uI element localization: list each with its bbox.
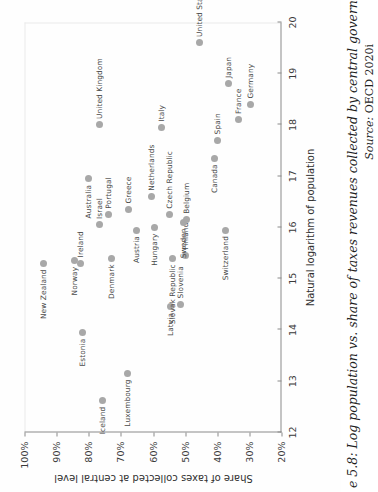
y-tick-label: 70% xyxy=(115,441,126,462)
x-tick-mark xyxy=(277,277,281,278)
data-point[interactable] xyxy=(40,259,47,266)
data-point-label: Switzerland xyxy=(220,236,229,280)
data-point-label: New Zealand xyxy=(39,269,48,319)
data-point[interactable] xyxy=(125,206,132,213)
y-tick-label: 100% xyxy=(19,441,30,468)
x-tick-label: 15 xyxy=(286,272,297,284)
y-tick-label: 50% xyxy=(179,441,190,462)
x-tick-label: 12 xyxy=(286,426,297,438)
data-point-label: Canada xyxy=(209,164,218,193)
y-tick-label: 20% xyxy=(276,441,287,462)
data-point-label: Spain xyxy=(212,113,221,134)
data-point[interactable] xyxy=(107,254,114,261)
x-tick-label: 19 xyxy=(286,67,297,79)
data-point-label: Czech Republic xyxy=(164,151,173,209)
data-point-label: Luxembourg xyxy=(122,379,131,426)
data-point[interactable] xyxy=(221,226,228,233)
x-tick-label: 13 xyxy=(286,375,297,387)
data-point[interactable] xyxy=(165,211,172,218)
x-tick-label: 18 xyxy=(286,118,297,130)
data-point[interactable] xyxy=(123,370,130,377)
data-point-label: Portugal xyxy=(103,177,112,208)
data-point-label: Japan xyxy=(223,56,232,77)
y-tick-mark xyxy=(24,432,25,436)
y-tick-mark xyxy=(249,432,250,436)
data-point[interactable] xyxy=(234,116,241,123)
x-tick-mark xyxy=(277,226,281,227)
data-point[interactable] xyxy=(96,221,103,228)
data-point-label: Sweden xyxy=(179,228,188,258)
y-tick-mark xyxy=(217,432,218,436)
data-point-label: Hungary xyxy=(150,233,159,265)
y-tick-mark xyxy=(56,432,57,436)
data-point[interactable] xyxy=(77,259,84,266)
data-point[interactable] xyxy=(151,224,158,231)
data-point-label: Slovak Republic xyxy=(167,264,176,324)
x-tick-label: 17 xyxy=(286,170,297,182)
data-point-label: Austria xyxy=(132,236,141,263)
data-point[interactable] xyxy=(96,121,103,128)
x-axis-title: Natural logarithm of population xyxy=(304,148,315,306)
data-point-label: Belgium xyxy=(182,182,191,213)
x-tick-mark xyxy=(277,21,281,22)
y-tick-label: 30% xyxy=(243,441,254,462)
y-tick-mark xyxy=(185,432,186,436)
data-point-label: Norway xyxy=(69,266,78,295)
x-tick-mark xyxy=(277,380,281,381)
data-point-label: Iceland xyxy=(97,406,106,433)
x-tick-label: 20 xyxy=(286,16,297,28)
x-tick-mark xyxy=(277,72,281,73)
data-point-label: Netherlands xyxy=(146,144,155,190)
data-point-label: Italy xyxy=(156,105,165,122)
data-point-label: France xyxy=(233,88,242,113)
data-point-label: United Kingdom xyxy=(95,58,104,119)
data-point[interactable] xyxy=(213,136,220,143)
source-label: Source: xyxy=(363,117,376,160)
source-reference: OECD 2020i xyxy=(363,44,376,113)
data-point[interactable] xyxy=(157,124,164,131)
x-tick-mark xyxy=(277,329,281,330)
x-tick-label: 14 xyxy=(286,323,297,335)
y-tick-label: 90% xyxy=(51,441,62,462)
data-point[interactable] xyxy=(224,80,231,87)
y-tick-label: 80% xyxy=(83,441,94,462)
data-point-label: United States xyxy=(195,0,204,37)
data-point-label: Denmark xyxy=(106,264,115,299)
y-tick-label: 60% xyxy=(147,441,158,462)
y-tick-mark xyxy=(153,432,154,436)
data-point-label: Estonia xyxy=(77,338,86,366)
data-point[interactable] xyxy=(196,39,203,46)
data-point[interactable] xyxy=(210,154,217,161)
data-point-label: Ireland xyxy=(76,231,85,257)
data-point-label: Australia xyxy=(84,184,93,218)
y-tick-label: 40% xyxy=(211,441,222,462)
data-point[interactable] xyxy=(247,101,254,108)
data-point[interactable] xyxy=(78,329,85,336)
scatter-plot-area: 121314151617181920 20%30%40%50%60%70%80%… xyxy=(24,22,281,432)
data-point[interactable] xyxy=(183,216,190,223)
y-axis-title: Share of taxes collected at central leve… xyxy=(53,473,252,484)
x-tick-mark xyxy=(277,124,281,125)
data-point-label: Greece xyxy=(124,176,133,203)
figure-source-line: Source: OECD 2020i xyxy=(363,44,376,160)
figure-caption-block: e 5.8: Log population vs. share of taxes… xyxy=(339,0,378,492)
x-tick-label: 16 xyxy=(286,221,297,233)
data-point-label: Germany xyxy=(246,63,255,98)
x-tick-mark xyxy=(277,431,281,432)
x-tick-mark xyxy=(277,175,281,176)
data-point[interactable] xyxy=(168,254,175,261)
y-tick-mark xyxy=(88,432,89,436)
data-point[interactable] xyxy=(147,193,154,200)
data-point[interactable] xyxy=(104,211,111,218)
y-tick-mark xyxy=(281,432,282,436)
data-point[interactable] xyxy=(176,300,183,307)
y-tick-mark xyxy=(120,432,121,436)
data-point[interactable] xyxy=(70,257,77,264)
data-point[interactable] xyxy=(85,175,92,182)
figure-caption-text: e 5.8: Log population vs. share of taxes… xyxy=(345,0,360,488)
data-point[interactable] xyxy=(133,226,140,233)
data-point[interactable] xyxy=(98,397,105,404)
